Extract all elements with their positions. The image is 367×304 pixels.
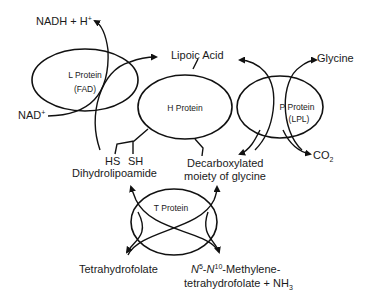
l-protein-cofactor: (FAD) — [74, 84, 96, 94]
dihydrolipoamide-to-lipoic-arrow — [95, 57, 156, 150]
decarboxylated-label-1: Decarboxylated — [187, 157, 263, 169]
glycine-label: Glycine — [317, 52, 354, 64]
co2-arrow — [283, 130, 310, 154]
hs-label: HS — [105, 155, 120, 167]
tetrahydrofolate-label: Tetrahydrofolate — [79, 263, 158, 275]
l-protein-ellipse — [32, 49, 138, 111]
t-protein-ellipse — [131, 189, 217, 255]
l-protein-label: L Protein — [68, 70, 102, 80]
nadh-label: NADH + H+ — [36, 15, 92, 27]
dihydrolipoamide-label: Dihydrolipoamide — [72, 167, 157, 179]
sh-label: SH — [128, 155, 143, 167]
hs-stem — [115, 129, 148, 154]
methylene-label-1: N5-N10-Methylene- — [191, 263, 281, 275]
p-protein-cofactor: (LPL) — [289, 114, 310, 124]
methylene-label-2: tetrahydrofolate + NH3 — [184, 277, 293, 291]
nad-label: NAD+ — [18, 109, 45, 121]
nad-to-nadh-arrow — [48, 21, 108, 116]
lipoic-acid-label: Lipoic Acid — [171, 49, 224, 61]
glycine-cleavage-diagram: L Protein (FAD) H Protein P Protein (LPL… — [0, 0, 367, 304]
decarboxylated-label-2: moiety of glycine — [184, 170, 266, 182]
t-to-dihydrolipoamide-arrow — [131, 187, 216, 248]
h-protein-label: H Protein — [167, 103, 203, 113]
decarboxylated-stem — [195, 139, 203, 156]
co2-label: CO2 — [313, 149, 334, 163]
t-protein-label: T Protein — [154, 203, 189, 213]
